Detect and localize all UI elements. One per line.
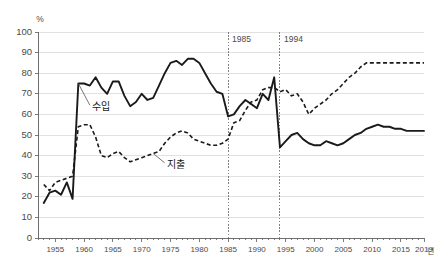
- x-tick-label: 1955: [46, 245, 64, 254]
- x-tick-label: 2000: [306, 245, 324, 254]
- x-tick-label: 2005: [334, 245, 352, 254]
- y-tick-label: 80: [21, 67, 32, 78]
- y-tick-label: 90: [21, 46, 32, 57]
- x-tick-label: 1965: [104, 245, 122, 254]
- y-tick-label: 50: [21, 129, 32, 140]
- y-tick-label: 100: [16, 26, 32, 37]
- x-tick-label: 2015: [392, 245, 410, 254]
- data-series: [44, 59, 424, 203]
- y-tick-label: 30: [21, 170, 32, 181]
- grid-lines: [38, 32, 424, 217]
- event-label-1985: 1985: [232, 34, 251, 44]
- x-tick-label: 1970: [133, 245, 151, 254]
- y-tick-label: 0: [27, 232, 32, 243]
- line-chart: 19851994 0102030405060708090100 19551960…: [0, 0, 441, 272]
- series-annotations: 수입지출: [78, 84, 184, 170]
- x-tick-label: 1960: [75, 245, 93, 254]
- series-line-income: [44, 59, 424, 203]
- series-label-income: 수입: [92, 100, 110, 112]
- y-tick-label: 60: [21, 108, 32, 119]
- x-tick-label: 1975: [162, 245, 180, 254]
- x-tick-label: 2010: [363, 245, 381, 254]
- x-tick-label: 1985: [219, 245, 237, 254]
- y-axis-ticks: 0102030405060708090100: [16, 26, 38, 243]
- y-tick-label: 40: [21, 149, 32, 160]
- x-axis-unit-label: 년: [427, 246, 434, 256]
- y-tick-label: 10: [21, 211, 32, 222]
- y-axis-unit-label: %: [36, 14, 44, 24]
- x-tick-label: 1995: [277, 245, 295, 254]
- series-leader-line: [78, 84, 90, 106]
- event-label-1994: 1994: [284, 34, 303, 44]
- series-line-expenditure: [44, 63, 424, 191]
- series-label-expenditure: 지출: [167, 159, 185, 170]
- y-tick-label: 70: [21, 87, 32, 98]
- x-tick-label: 1980: [190, 245, 208, 254]
- x-axis-ticks: 1955196019651970197519801985199019952000…: [46, 238, 433, 254]
- chart-container: 19851994 0102030405060708090100 19551960…: [0, 0, 441, 272]
- y-tick-label: 20: [21, 190, 32, 201]
- series-leader-line: [153, 154, 165, 163]
- x-tick-label: 1990: [248, 245, 266, 254]
